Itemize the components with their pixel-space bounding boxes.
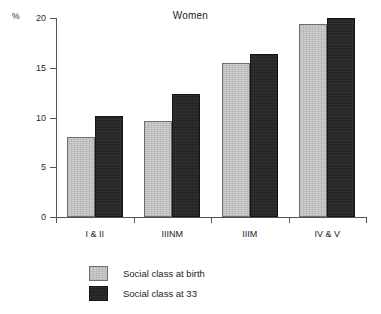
x-category-label-iv-v: IV & V (314, 229, 340, 239)
y-tick-label-15: 15 (14, 63, 46, 73)
legend-label-at-33: Social class at 33 (123, 288, 197, 299)
bar-iv-v-series-1 (299, 24, 327, 217)
bar-iv-v-series-2 (327, 18, 355, 217)
legend-item-birth: Social class at birth (89, 263, 205, 283)
y-tick-label-10: 10 (14, 113, 46, 123)
legend-swatch-dark-icon (89, 286, 108, 301)
x-tick-3 (289, 217, 290, 223)
bar-i-ii-series-1 (67, 137, 95, 217)
bar-chart-women: Women % 05101520 I & IIIIINMIIIMIV & V S… (0, 0, 381, 314)
y-tick-label-20: 20 (14, 13, 46, 23)
x-tick-1 (134, 217, 135, 223)
bar-i-ii-series-2 (95, 116, 123, 217)
x-tick-4 (366, 217, 367, 223)
chart-legend: Social class at birth Social class at 33 (89, 263, 205, 303)
bar-iiim-series-2 (250, 54, 278, 217)
x-tick-2 (211, 217, 212, 223)
x-tick-0 (56, 217, 57, 223)
x-category-label-iiim: IIIM (242, 229, 257, 239)
legend-label-birth: Social class at birth (123, 268, 205, 279)
bar-iiim-series-1 (222, 63, 250, 217)
y-tick-label-0: 0 (14, 212, 46, 222)
x-category-label-i-ii: I & II (85, 229, 104, 239)
y-tick-label-5: 5 (14, 162, 46, 172)
bar-iiinm-series-2 (172, 94, 200, 217)
legend-swatch-light-gray-icon (89, 266, 108, 281)
plot-area (56, 18, 366, 217)
legend-item-at-33: Social class at 33 (89, 283, 205, 303)
bar-iiinm-series-1 (144, 121, 172, 218)
x-category-label-iiinm: IIINM (162, 229, 184, 239)
